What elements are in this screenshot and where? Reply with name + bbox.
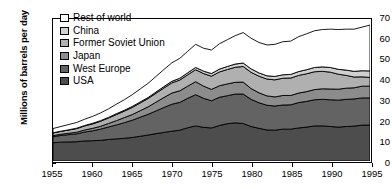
x-axis-tick-label: 1995 [352,168,392,179]
legend-item: Rest of world [60,12,165,25]
x-axis-tick-mark [52,163,53,167]
legend-label: Rest of world [73,13,131,23]
legend-item: Japan [60,50,165,63]
x-axis-tick-label: 1960 [72,168,112,179]
x-axis-tick-mark [92,163,93,167]
x-axis-tick-mark [332,163,333,167]
x-axis-tick-label: 1975 [192,168,232,179]
legend-item: Former Soviet Union [60,37,165,50]
legend-swatch-icon [60,52,69,60]
legend-swatch-icon [60,65,69,73]
legend-swatch-icon [60,14,69,22]
x-axis-tick-mark [372,163,373,167]
legend-swatch-icon [60,77,69,85]
x-axis-tick-label: 1970 [152,168,192,179]
x-axis-tick-mark [212,163,213,167]
x-axis-tick-label: 1955 [32,168,72,179]
legend-item: West Europe [60,62,165,75]
legend-label: West Europe [73,64,131,74]
x-axis-tick-label: 1990 [312,168,352,179]
x-axis-tick-mark [252,163,253,167]
legend-swatch-icon [60,27,69,35]
legend-swatch-icon [60,39,69,47]
x-axis-tick-label: 1965 [112,168,152,179]
legend-item: China [60,25,165,38]
legend-label: USA [73,76,94,86]
y-axis-title: Millions of barrels per day [18,0,29,143]
legend-label: Japan [73,51,100,61]
x-axis-tick-label: 1985 [272,168,312,179]
x-axis-tick-mark [132,163,133,167]
legend-label: China [73,26,99,36]
x-axis-tick-label: 1980 [232,168,272,179]
chart-legend: Rest of worldChinaFormer Soviet UnionJap… [60,12,165,88]
legend-item: USA [60,75,165,88]
legend-label: Former Soviet Union [73,38,165,48]
x-axis-tick-mark [292,163,293,167]
x-axis-tick-mark [172,163,173,167]
